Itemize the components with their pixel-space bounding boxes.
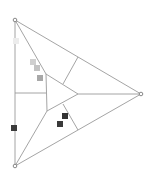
marker-mid	[37, 75, 43, 81]
marker-dark	[62, 113, 68, 119]
marker-faint	[13, 38, 19, 44]
spoke-bottom-left	[15, 111, 47, 166]
marker-dark	[57, 121, 63, 127]
bisector-top	[63, 57, 78, 84]
marker-dark	[11, 125, 17, 131]
marker-light	[34, 65, 40, 71]
marker-light	[30, 59, 36, 65]
diagram-canvas	[0, 0, 155, 180]
vertex-top-left	[13, 18, 17, 22]
vertex-right	[139, 92, 143, 96]
vertex-bottom-left	[13, 164, 17, 168]
spoke-top-left	[15, 20, 46, 74]
inner-edge-left	[46, 74, 47, 111]
triangle-diagram	[0, 0, 155, 180]
inner-edge-top	[46, 74, 78, 94]
inner-edge-bottom	[47, 94, 78, 111]
